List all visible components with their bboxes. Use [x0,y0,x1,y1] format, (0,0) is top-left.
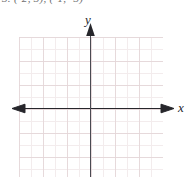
coordinate-grid [19,37,163,177]
clipped-problem-text-band: 3. (-2, 3), (-1, -3) [0,0,195,7]
y-axis-label: y [85,13,91,26]
coordinate-plane-figure: 3. (-2, 3), (-1, -3) x y [0,0,195,177]
x-axis-label: x [178,101,184,114]
clipped-problem-text: 3. (-2, 3), (-1, -3) [2,0,83,4]
